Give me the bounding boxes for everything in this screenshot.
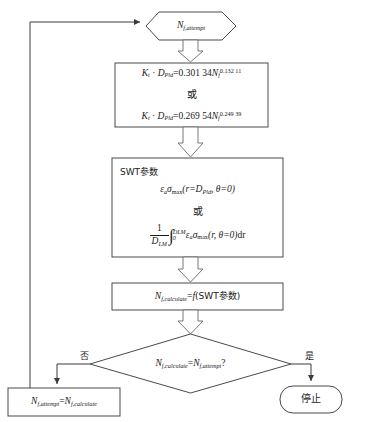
block-arrow-4 — [178, 310, 203, 334]
update-box-shape — [8, 388, 120, 416]
swt-or-label: 或 — [112, 203, 283, 218]
swt-box-heading: SWT参数 — [120, 165, 158, 178]
edge-label-no: 否 — [80, 349, 89, 362]
edge-yes — [291, 364, 311, 381]
block-arrow-2 — [178, 127, 203, 157]
start-hexagon-shape — [146, 12, 236, 40]
stop-terminal-shape — [280, 386, 342, 413]
block-arrow-3 — [178, 257, 203, 282]
block-arrow-1 — [178, 40, 203, 62]
calc-box-shape — [112, 283, 283, 310]
decision-diamond-shape — [90, 334, 291, 393]
edge-label-yes: 是 — [305, 349, 314, 362]
equation-box-shape — [115, 63, 268, 127]
edge-no — [57, 364, 90, 384]
